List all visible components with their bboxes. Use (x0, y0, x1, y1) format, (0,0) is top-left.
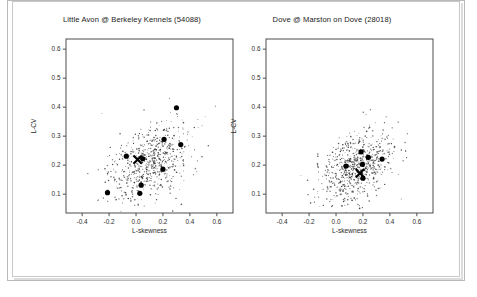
scatter-point (120, 187, 122, 189)
scatter-point (153, 154, 155, 156)
scatter-point (114, 179, 116, 181)
scatter-point (104, 168, 106, 170)
scatter-point (156, 188, 157, 189)
scatter-point (366, 114, 367, 115)
y-axis-title: L-CV (230, 118, 237, 134)
scatter-point (180, 152, 181, 153)
scatter-point (358, 182, 359, 183)
scatter-point (150, 148, 151, 149)
scatter-point (357, 166, 358, 167)
scatter-point (332, 183, 333, 184)
scatter-point (394, 146, 396, 148)
scatter-point (352, 170, 354, 172)
scatter-point (332, 205, 333, 206)
site-point (343, 163, 348, 168)
scatter-point (146, 167, 147, 168)
scatter-point (187, 139, 188, 140)
scatter-point (358, 139, 360, 141)
scatter-point (192, 136, 193, 137)
scatter-point (369, 152, 370, 153)
scatter-point (114, 170, 115, 171)
scatter-point (171, 145, 172, 146)
scatter-point (142, 153, 143, 154)
scatter-point (172, 164, 174, 166)
scatter-point (193, 174, 194, 175)
scatter-point (133, 141, 134, 142)
scatter-point (350, 165, 351, 166)
scatter-point (138, 148, 140, 150)
scatter-point (391, 172, 392, 173)
scatter-point (352, 139, 353, 140)
scatter-point (139, 176, 140, 177)
scatter-point (162, 161, 163, 162)
scatter-point (131, 174, 132, 175)
scatter-point (166, 130, 168, 132)
scatter-point (376, 158, 377, 159)
scatter-point (170, 149, 171, 150)
scatter-point (363, 142, 364, 143)
scatter-point (149, 170, 150, 171)
scatter-point (143, 136, 144, 137)
scatter-point (387, 150, 388, 151)
scatter-point (381, 138, 382, 139)
scatter-point (343, 173, 345, 175)
scatter-point (121, 145, 122, 146)
scatter-point (366, 131, 368, 133)
scatter-point (348, 162, 349, 163)
scatter-point (326, 178, 327, 179)
scatter-point (357, 198, 358, 199)
x-tick-label: 0.4 (385, 218, 394, 225)
scatter-point (161, 185, 162, 186)
scatter-point (331, 181, 333, 183)
scatter-point (142, 175, 143, 176)
scatter-point (346, 172, 347, 173)
scatter-point (349, 188, 350, 189)
scatter-point (149, 180, 150, 181)
scatter-point (369, 124, 370, 125)
scatter-point (142, 134, 143, 135)
scatter-point (378, 139, 379, 140)
scatter-point (196, 171, 197, 172)
scatter-point (194, 127, 195, 128)
page-canvas: Little Avon @ Berkeley Kennels (54088) -… (0, 0, 477, 297)
scatter-point (125, 152, 126, 153)
scatter-point (146, 159, 147, 160)
scatter-point (165, 173, 166, 174)
scatter-point (145, 165, 146, 166)
scatter-point (344, 200, 345, 201)
scatter-point (356, 135, 357, 136)
scatter-point (382, 129, 383, 130)
scatter-point (336, 195, 338, 197)
scatter-point (170, 180, 171, 181)
scatter-point (159, 165, 160, 166)
scatter-point (359, 205, 360, 206)
scatter-point (159, 154, 160, 155)
scatter-point (110, 147, 111, 148)
scatter-point (123, 191, 125, 193)
scatter-point (355, 183, 356, 184)
scatter-point (346, 177, 347, 178)
scatter-point (372, 160, 373, 161)
scatter-point (119, 183, 121, 185)
scatter-point (155, 135, 157, 137)
scatter-point (115, 199, 117, 201)
scatter-point (350, 136, 351, 137)
scatter-point (353, 197, 355, 199)
scatter-point (369, 164, 371, 166)
scatter-point (171, 144, 172, 145)
scatter-point (374, 172, 376, 174)
scatter-point (134, 173, 136, 175)
scatter-point (183, 122, 184, 123)
scatter-point (130, 151, 131, 152)
scatter-point (346, 136, 347, 137)
x-tick-label: -0.2 (104, 218, 115, 225)
scatter-point (154, 160, 155, 161)
scatter-point (175, 198, 176, 199)
scatter-point (375, 154, 377, 156)
scatter-point (341, 186, 342, 187)
scatter-point (353, 164, 354, 165)
scatter-point (136, 155, 137, 156)
point-cloud (87, 98, 216, 228)
scatter-point (129, 172, 130, 173)
scatter-point (169, 159, 171, 161)
